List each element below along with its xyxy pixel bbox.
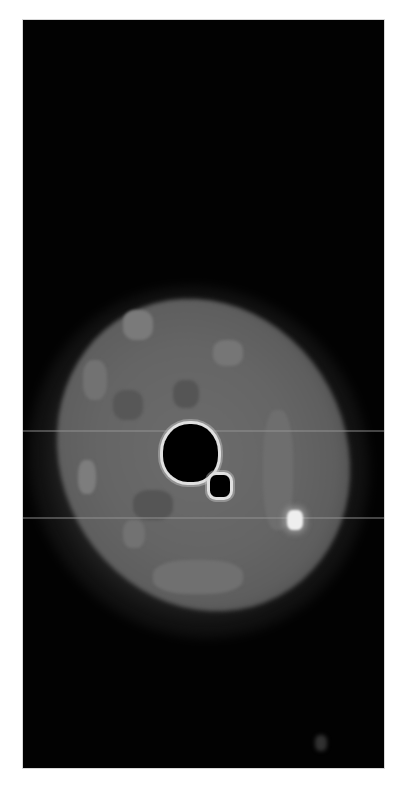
granule [123,310,153,340]
granule [133,490,173,520]
granule [113,390,143,420]
faint-spot [315,735,327,751]
granule [213,340,243,366]
granule [83,360,107,400]
granule [173,380,199,408]
scan-line [23,517,384,519]
dark-vacuole-small [210,475,230,497]
image-frame [23,20,384,768]
granule [153,560,243,594]
bright-spot [287,510,303,530]
granule [123,520,145,548]
granule [78,460,96,494]
dark-vacuole-large [163,424,218,482]
